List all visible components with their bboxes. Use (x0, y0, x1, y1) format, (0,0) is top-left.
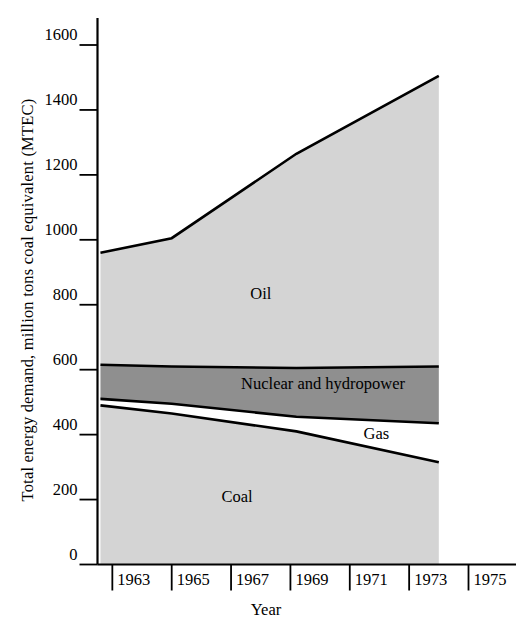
y-axis-ticks (80, 45, 98, 565)
x-tick-label-1973: 1973 (414, 572, 447, 589)
y-axis-title: Total energy demand, million tons coal e… (18, 40, 38, 560)
series-label-oil: Oil (250, 286, 271, 303)
x-axis-title: Year (0, 600, 532, 620)
area-series-group (100, 76, 438, 565)
series-label-gas: Gas (363, 426, 389, 443)
energy-demand-area-chart: 02004006008001000120014001600 1963196519… (0, 0, 532, 635)
x-tick-label-1963: 1963 (117, 572, 150, 589)
area-oil (100, 76, 438, 368)
series-label-nuclear-and-hydropower: Nuclear and hydropower (241, 376, 405, 393)
x-tick-label-1967: 1967 (236, 572, 269, 589)
x-tick-label-1969: 1969 (295, 572, 328, 589)
chart-plot-area (0, 0, 532, 635)
x-tick-label-1975: 1975 (474, 572, 507, 589)
x-tick-label-1971: 1971 (355, 572, 388, 589)
x-tick-label-1965: 1965 (177, 572, 210, 589)
series-label-coal: Coal (221, 489, 252, 506)
